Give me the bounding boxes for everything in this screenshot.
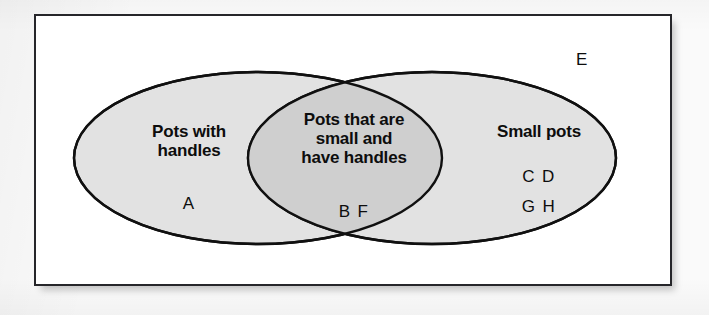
venn-diagram-svg [36, 16, 674, 288]
universal-set-rectangle: Pots with handles A Pots that are small … [34, 14, 672, 286]
